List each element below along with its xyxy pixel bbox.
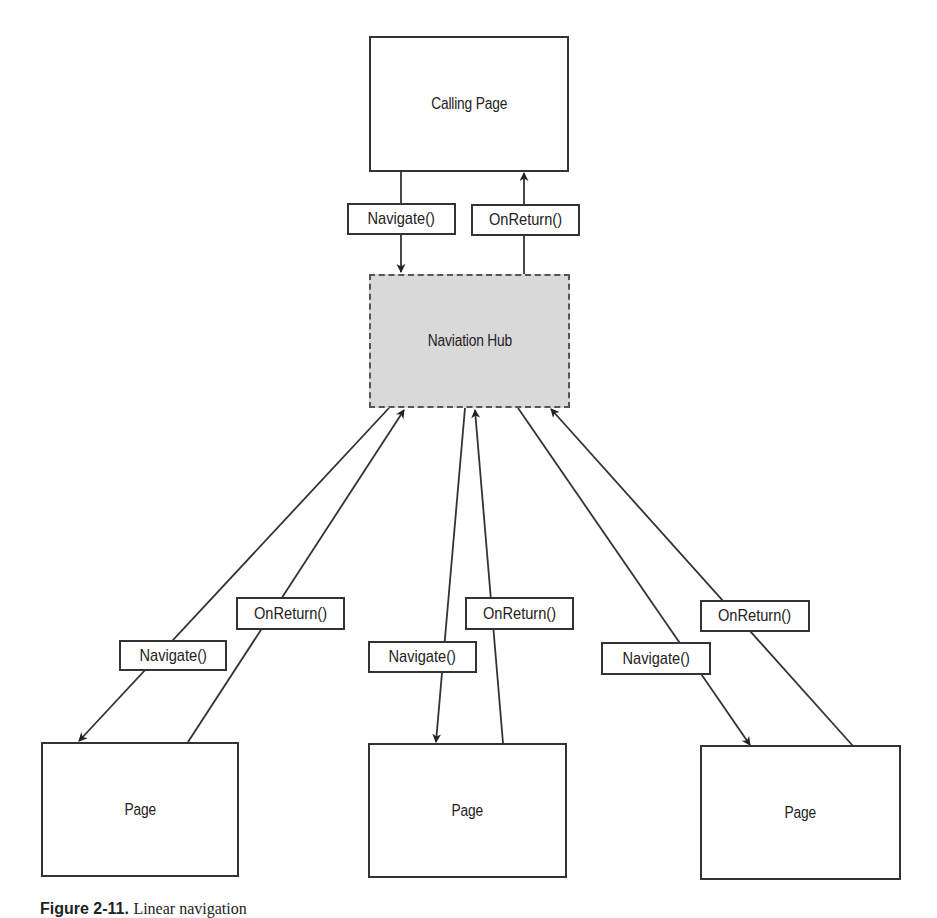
top-onreturn-label: OnReturn()	[471, 204, 580, 236]
left-onreturn-label: OnReturn()	[236, 597, 345, 630]
right-navigate-label: Navigate()	[601, 642, 711, 675]
middle-navigate-label: Navigate()	[368, 641, 477, 673]
middle-page-label: Page	[452, 802, 483, 820]
figure-caption-text: Linear navigation	[133, 900, 246, 917]
left-page-label: Page	[124, 801, 155, 819]
figure-number: Figure 2-11.	[40, 900, 129, 917]
edge-hub-to-middle-page	[436, 408, 465, 742]
figure-caption: Figure 2-11. Linear navigation	[40, 900, 247, 918]
right-page-node: Page	[700, 745, 901, 880]
edge-hub-to-right-page	[518, 408, 750, 745]
edge-left-page-to-hub	[188, 410, 404, 742]
right-onreturn-label: OnReturn()	[700, 600, 810, 632]
left-navigate-label: Navigate()	[119, 640, 227, 671]
navigation-hub-label: Naviation Hub	[427, 332, 511, 350]
edge-middle-page-to-hub	[475, 410, 503, 743]
edge-hub-to-left-page	[79, 408, 389, 741]
navigation-hub-node: Naviation Hub	[369, 274, 570, 408]
left-page-node: Page	[41, 742, 239, 877]
edge-right-page-to-hub	[551, 409, 853, 746]
right-page-label: Page	[785, 804, 816, 822]
middle-onreturn-label: OnReturn()	[465, 597, 574, 630]
top-navigate-label: Navigate()	[347, 203, 456, 235]
calling-page-node: Calling Page	[369, 36, 569, 172]
calling-page-label: Calling Page	[431, 95, 507, 113]
middle-page-node: Page	[368, 743, 567, 878]
